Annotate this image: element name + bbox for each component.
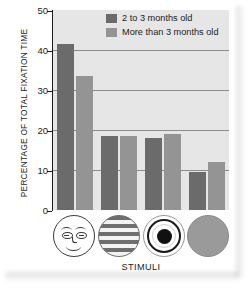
chart-legend: 2 to 3 months old More than 3 months old: [106, 12, 219, 40]
gridline-40: [53, 50, 229, 51]
legend-swatch-more-than-3-months: [106, 28, 117, 37]
plain-circle-fill: [187, 215, 229, 257]
bar-horizontal-stripes-series1: [101, 136, 118, 210]
legend-item-more-than-3-months: More than 3 months old: [106, 26, 219, 38]
y-tick-label-50: 50: [26, 6, 48, 16]
face-eye-right: [76, 232, 87, 240]
x-axis-title: STIMULI: [53, 262, 229, 272]
y-axis-tick-group: 50 40 30 20 10 0: [0, 0, 48, 290]
bar-face-series2: [76, 76, 93, 210]
legend-swatch-2-to-3-months: [106, 14, 117, 23]
face-eye-left: [62, 232, 73, 240]
bar-bullseye-series1: [145, 138, 162, 210]
plain-circle-stimulus-icon: [187, 215, 229, 257]
bar-plain-circle-series1: [189, 172, 206, 210]
y-tick-label-30: 30: [26, 86, 48, 96]
face-stimulus-icon: [53, 215, 95, 257]
stimuli-icon-row: [53, 214, 229, 260]
y-tick-label-0: 0: [26, 206, 48, 216]
bar-horizontal-stripes-series2: [120, 136, 137, 210]
y-tick-label-10: 10: [26, 166, 48, 176]
page-shadow-right: [236, 6, 245, 278]
bar-plain-circle-series2: [208, 162, 225, 210]
legend-label-more-than-3-months: More than 3 months old: [122, 27, 219, 37]
stripes-pattern: [98, 215, 140, 257]
bullseye-stimulus-icon: [143, 215, 185, 257]
face-eye-right-lid: [79, 235, 84, 236]
bullseye-center-dot: [157, 229, 172, 244]
bar-chart-figure: PERCENTAGE OF TOTAL FIXATION TIME 50 40 …: [0, 0, 247, 290]
face-eye-left-lid: [64, 235, 69, 236]
y-tick-label-40: 40: [26, 46, 48, 56]
legend-item-2-to-3-months: 2 to 3 months old: [106, 12, 219, 24]
face-mouth: [66, 242, 81, 251]
plot-area: [53, 10, 229, 210]
horizontal-stripes-stimulus-icon: [98, 215, 140, 257]
bar-face-series1: [57, 44, 74, 210]
bar-bullseye-series2: [164, 134, 181, 210]
y-tick-label-20: 20: [26, 126, 48, 136]
legend-label-2-to-3-months: 2 to 3 months old: [122, 13, 192, 23]
